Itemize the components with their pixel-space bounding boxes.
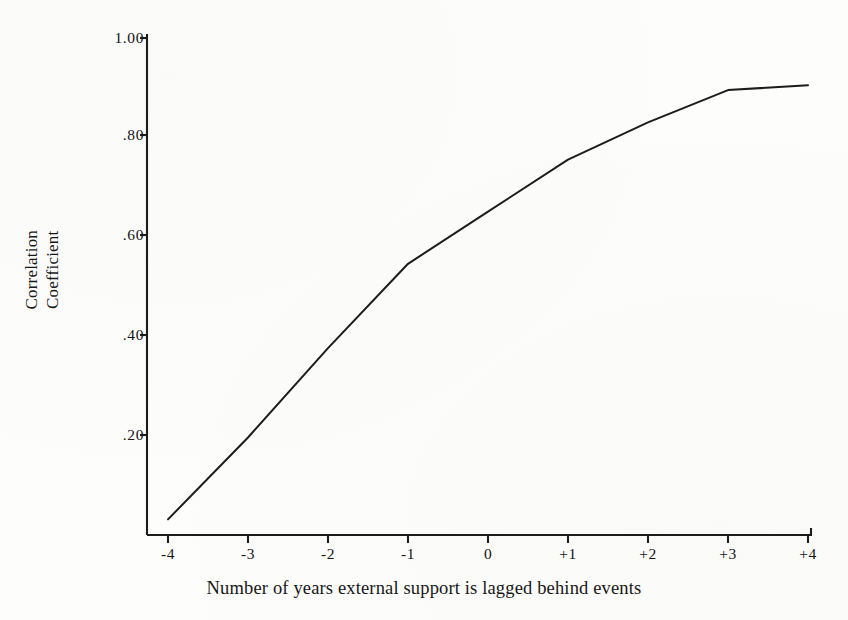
x-tick-label: +3 bbox=[703, 545, 753, 563]
x-tick-label: -3 bbox=[223, 545, 273, 563]
x-axis-tick-labels: -4 -3 -2 -1 0 +1 +2 +3 +4 bbox=[0, 0, 848, 620]
x-tick-label: -2 bbox=[303, 545, 353, 563]
x-tick-label: +4 bbox=[783, 545, 833, 563]
chart-figure: Coefficient Correlation 1.00 .80 .60 .40… bbox=[0, 0, 848, 620]
x-tick-label: -1 bbox=[383, 545, 433, 563]
x-axis-title: Number of years external support is lagg… bbox=[0, 578, 848, 599]
x-tick-label: 0 bbox=[463, 545, 513, 563]
x-tick-label: +1 bbox=[543, 545, 593, 563]
x-tick-label: +2 bbox=[623, 545, 673, 563]
x-tick-label: -4 bbox=[143, 545, 193, 563]
